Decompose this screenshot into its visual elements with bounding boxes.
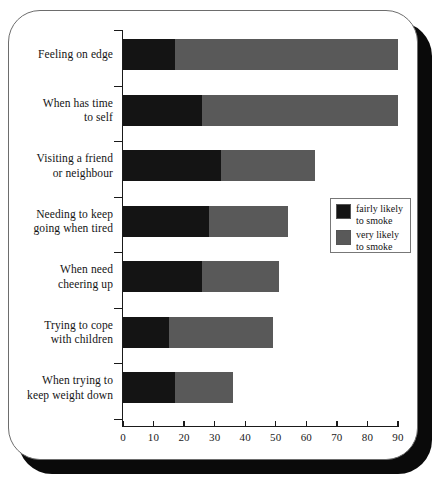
- x-axis-tick: [183, 421, 184, 427]
- bar-segment: [123, 317, 169, 348]
- category-label-line: to self: [84, 111, 113, 123]
- category-label-line: When trying to: [42, 374, 113, 386]
- legend-item-very-likely: very likely to smoke: [336, 229, 406, 252]
- x-axis-tick: [367, 421, 368, 427]
- category-label-line: Trying to cope: [44, 319, 113, 331]
- y-axis-tick: [114, 86, 122, 87]
- x-axis-tick: [122, 421, 123, 427]
- y-axis-tick: [114, 252, 122, 253]
- y-axis-tick: [114, 308, 122, 309]
- x-axis-tick-label: 50: [270, 431, 281, 443]
- x-axis-line: [122, 426, 399, 427]
- category-label: When trying tokeep weight down: [0, 373, 113, 402]
- x-axis-tick: [306, 421, 307, 427]
- bar-segment: [169, 317, 273, 348]
- x-axis-tick: [153, 421, 154, 427]
- x-axis-tick-label: 90: [392, 431, 403, 443]
- legend-item-fairly-likely: fairly likely to smoke: [336, 203, 406, 226]
- bar-segment: [202, 261, 278, 292]
- y-axis-tick: [114, 197, 122, 198]
- legend-swatch-very-likely-icon: [336, 230, 351, 245]
- category-label-line: going when tired: [33, 222, 113, 234]
- bar-row: [123, 317, 273, 348]
- x-axis-tick-label: 70: [331, 431, 342, 443]
- category-label: When has timeto self: [0, 96, 113, 125]
- x-axis-tick-label: 30: [209, 431, 220, 443]
- category-label-line: Visiting a friend: [37, 152, 113, 164]
- legend-label-fairly-likely-line2: to smoke: [356, 215, 392, 226]
- bar-segment: [123, 206, 209, 237]
- x-axis-tick-label: 60: [301, 431, 312, 443]
- category-label: Feeling on edge: [0, 47, 113, 62]
- category-label-line: Feeling on edge: [38, 48, 113, 60]
- bar-row: [123, 150, 316, 181]
- bar-row: [123, 261, 279, 292]
- x-axis-tick-label: 10: [148, 431, 159, 443]
- bar-segment: [123, 95, 202, 126]
- category-label-line: cheering up: [58, 278, 113, 290]
- legend-label-very-likely-line1: very likely: [356, 229, 399, 240]
- category-label: Needing to keepgoing when tired: [0, 207, 113, 236]
- bar-segment: [175, 372, 233, 403]
- bar-segment: [123, 261, 202, 292]
- category-label-line: When need: [60, 263, 113, 275]
- x-axis-tick-label: 80: [362, 431, 373, 443]
- category-label-line: When has time: [43, 97, 113, 109]
- bar-row: [123, 206, 288, 237]
- bar-segment: [123, 150, 221, 181]
- x-axis-tick: [336, 421, 337, 427]
- y-axis-tick: [114, 30, 122, 31]
- chart-legend: fairly likely to smoke very likely to sm…: [330, 198, 411, 253]
- bar-segment: [123, 39, 175, 70]
- category-label-line: with children: [51, 333, 113, 345]
- legend-swatch-fairly-likely-icon: [336, 204, 351, 219]
- x-axis-tick-label: 0: [120, 431, 126, 443]
- legend-label-very-likely-line2: to smoke: [356, 241, 392, 252]
- bar-segment: [202, 95, 398, 126]
- x-axis-tick-label: 40: [240, 431, 251, 443]
- legend-label-very-likely: very likely to smoke: [356, 229, 399, 252]
- category-label-line: keep weight down: [27, 389, 113, 401]
- legend-label-fairly-likely-line1: fairly likely: [356, 203, 403, 214]
- y-axis-tick: [114, 419, 122, 420]
- bar-segment: [123, 372, 175, 403]
- bar-row: [123, 372, 233, 403]
- bar-segment: [175, 39, 398, 70]
- bar-row: [123, 39, 398, 70]
- chart-figure: 0102030405060708090 Feeling on edgeWhen …: [0, 0, 443, 485]
- category-label-line: or neighbour: [53, 167, 113, 179]
- x-axis-tick-label: 20: [178, 431, 189, 443]
- bar-segment: [221, 150, 316, 181]
- x-axis-tick: [397, 421, 398, 427]
- category-label-line: Needing to keep: [36, 208, 113, 220]
- x-axis-tick: [245, 421, 246, 427]
- y-axis-tick: [114, 141, 122, 142]
- category-label: Trying to copewith children: [0, 318, 113, 347]
- x-axis-tick: [214, 421, 215, 427]
- category-label: When needcheering up: [0, 262, 113, 291]
- y-axis-tick: [114, 363, 122, 364]
- bar-segment: [209, 206, 288, 237]
- category-label: Visiting a friendor neighbour: [0, 151, 113, 180]
- bar-row: [123, 95, 398, 126]
- legend-label-fairly-likely: fairly likely to smoke: [356, 203, 403, 226]
- x-axis-tick: [275, 421, 276, 427]
